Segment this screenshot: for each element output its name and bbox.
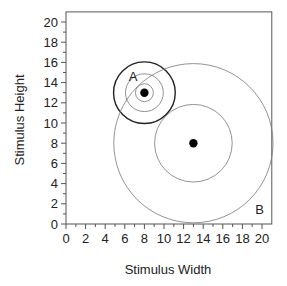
plot-frame [66,12,272,224]
y-tick-label: 16 [44,55,58,70]
x-tick-label: 8 [141,231,148,246]
y-axis-label: Stimulus Height [12,74,27,165]
y-tick-label: 12 [44,95,58,110]
y-tick-label: 18 [44,35,58,50]
x-tick-label: 10 [157,231,171,246]
x-tick-label: 16 [216,231,230,246]
y-tick-label: 6 [51,156,58,171]
label-b: B [255,202,264,217]
y-tick-label: 14 [44,75,58,90]
y-tick-label: 10 [44,116,58,131]
stimulus-point [140,89,148,97]
y-tick-label: 20 [44,15,58,30]
x-tick-label: 0 [62,231,69,246]
x-tick-label: 4 [102,231,109,246]
x-tick-label: 14 [196,231,210,246]
x-tick-label: 12 [176,231,190,246]
y-tick-label: 2 [51,196,58,211]
x-axis-label: Stimulus Width [125,262,212,277]
y-tick-label: 8 [51,136,58,151]
stimulus-point [189,139,197,147]
x-tick-label: 20 [255,231,269,246]
y-tick-label: 4 [51,176,58,191]
x-tick-label: 6 [121,231,128,246]
y-tick-label: 0 [51,217,58,232]
label-a: A [129,69,138,84]
x-tick-label: 2 [82,231,89,246]
chart: 0246810121416182002468101214161820 A B S… [0,0,287,286]
x-tick-label: 18 [235,231,249,246]
stimulus-circles [114,62,273,223]
